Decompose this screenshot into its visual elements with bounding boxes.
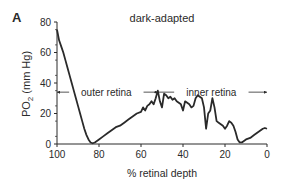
- panel-label: A: [12, 10, 22, 25]
- x-tick-label: 0: [264, 149, 270, 160]
- y-axis-ticks: 020406080: [40, 17, 57, 150]
- x-axis-label: % retinal depth: [127, 167, 197, 179]
- annotations: outer retinainner retina: [57, 87, 267, 98]
- x-tick-label: 100: [49, 149, 66, 160]
- x-tick-label: 80: [93, 149, 105, 160]
- y-tick-label: 40: [40, 78, 52, 89]
- x-tick-label: 60: [135, 149, 147, 160]
- y-tick-label: 60: [40, 47, 52, 58]
- x-tick-label: 20: [219, 149, 231, 160]
- axes: [57, 22, 267, 144]
- y-tick-label: 20: [40, 108, 52, 119]
- chart: A dark-adapted 020406080 100806040200 ou…: [0, 0, 283, 187]
- y-axis-label: PO2 (mm Hg): [20, 51, 35, 117]
- chart-title: dark-adapted: [130, 12, 195, 24]
- x-tick-label: 40: [177, 149, 189, 160]
- annotation-label: outer retina: [81, 87, 132, 98]
- annotation-label: inner retina: [186, 87, 236, 98]
- x-axis-ticks: 100806040200: [49, 144, 271, 160]
- y-tick-label: 80: [40, 17, 52, 28]
- y-tick-label: 0: [45, 139, 51, 150]
